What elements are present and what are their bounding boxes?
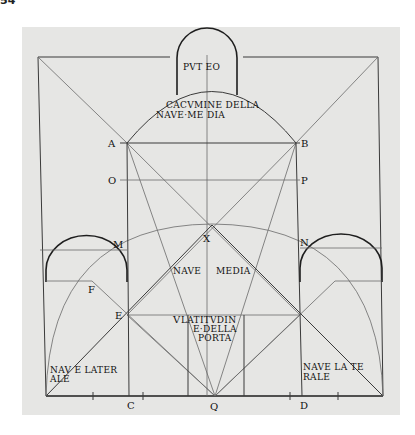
point-p: P bbox=[301, 175, 308, 186]
label-cacumine-1: CACVMINE DELLA bbox=[166, 100, 259, 110]
label-cacumine-2: NAVE·ME DIA bbox=[156, 110, 225, 120]
point-x: X bbox=[203, 233, 211, 244]
label-nave-media-1: NAVE bbox=[173, 266, 201, 276]
point-o: O bbox=[108, 175, 116, 186]
point-q: Q bbox=[210, 401, 218, 412]
label-nave-laterale-right-1: NAVE LA TE bbox=[303, 362, 364, 372]
central-nave-walls bbox=[120, 143, 302, 396]
point-n: N bbox=[300, 237, 309, 248]
label-latitudine-3: PORTA bbox=[198, 333, 232, 343]
point-e: E bbox=[115, 310, 122, 321]
point-b: B bbox=[301, 138, 308, 149]
point-f: F bbox=[88, 284, 95, 295]
label-nave-laterale-right-2: RALE bbox=[303, 372, 330, 382]
right-aisle-arch bbox=[300, 234, 382, 282]
point-d: D bbox=[300, 400, 308, 411]
point-a: A bbox=[107, 138, 116, 149]
architectural-diagram: A B O P M N X F E V C Q D PVT EO CACVMIN… bbox=[0, 0, 415, 435]
label-nave-laterale-left-2: ALE bbox=[49, 374, 70, 384]
label-puteo: PVT EO bbox=[183, 62, 220, 72]
point-v: V bbox=[172, 314, 181, 325]
label-nave-media-2: MEDIA bbox=[216, 266, 251, 276]
point-c: C bbox=[127, 400, 135, 411]
point-m: M bbox=[113, 239, 123, 250]
